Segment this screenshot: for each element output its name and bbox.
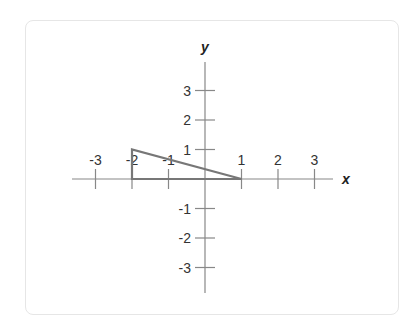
y-tick-label: 3 [183,83,191,99]
x-tick-label: 3 [311,152,319,168]
y-tick-label: 2 [183,112,191,128]
x-tick-label: 1 [238,152,246,168]
y-tick-label: -2 [179,230,192,246]
y-tick-label: 1 [183,142,191,158]
x-tick-label: -3 [89,152,102,168]
y-tick-label: -1 [179,201,192,217]
x-tick-label: 2 [274,152,282,168]
x-ticks: -3-2-1123 [89,152,318,189]
y-tick-label: -3 [179,260,192,276]
coordinate-plane: x y -3-2-1123 321-1-2-3 [0,0,420,330]
x-axis-label: x [341,171,351,187]
y-axis-label: y [200,39,210,55]
